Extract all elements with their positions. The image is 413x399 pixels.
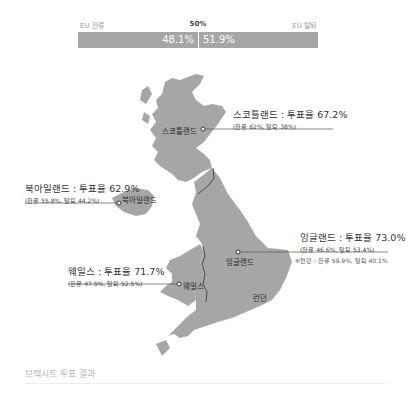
wales-marker — [177, 282, 181, 286]
england-marker — [236, 250, 240, 254]
cornwall-tip — [156, 340, 170, 356]
scotland-callout-title: 스코틀랜드 : 투표율 67.2% — [233, 107, 347, 121]
scotland-isle-2 — [142, 112, 150, 124]
scotland-isle — [140, 86, 152, 104]
london-note: ※런던 : 잔류 59.9%, 탈퇴 40.1% — [295, 256, 388, 265]
england-callout-title: 잉글랜드 : 투표율 73.0% — [300, 230, 405, 244]
scotland-map-label: 스코틀랜드 — [162, 125, 197, 136]
wales-callout-sub: (잔류 47.5%, 탈퇴 52.5%) — [68, 279, 164, 288]
northern-ireland-callout-sub: (잔류 55.8%, 탈퇴 44.2%) — [25, 196, 139, 205]
northern-ireland-callout: 북아일랜드 : 투표율 62.9% (잔류 55.8%, 탈퇴 44.2%) — [25, 181, 139, 205]
northern-ireland-callout-title: 북아일랜드 : 투표율 62.9% — [25, 181, 139, 195]
london-map-label: 런던 — [253, 292, 267, 303]
scotland-callout-sub: (잔류 62%, 탈퇴 38%) — [233, 122, 347, 131]
wales-map-label: 웨일스 — [183, 280, 204, 291]
england-map-label: 잉글랜드 — [226, 256, 254, 267]
wales-callout-title: 웨일스 : 투표율 71.7% — [68, 264, 164, 278]
england-callout: 잉글랜드 : 투표율 73.0% (잔류 46.6%, 탈퇴 53.4%) — [300, 230, 405, 254]
england-callout-sub: (잔류 46.6%, 탈퇴 53.4%) — [300, 245, 405, 254]
wales-callout: 웨일스 : 투표율 71.7% (잔류 47.5%, 탈퇴 52.5%) — [68, 264, 164, 288]
caption-divider — [25, 383, 385, 384]
scotland-marker — [201, 127, 205, 131]
scotland-callout: 스코틀랜드 : 투표율 67.2% (잔류 62%, 탈퇴 38%) — [233, 107, 347, 131]
london-note-text: ※런던 : 잔류 59.9%, 탈퇴 40.1% — [295, 256, 388, 265]
figure-caption: 브렉시트 투표 결과 — [25, 367, 95, 380]
